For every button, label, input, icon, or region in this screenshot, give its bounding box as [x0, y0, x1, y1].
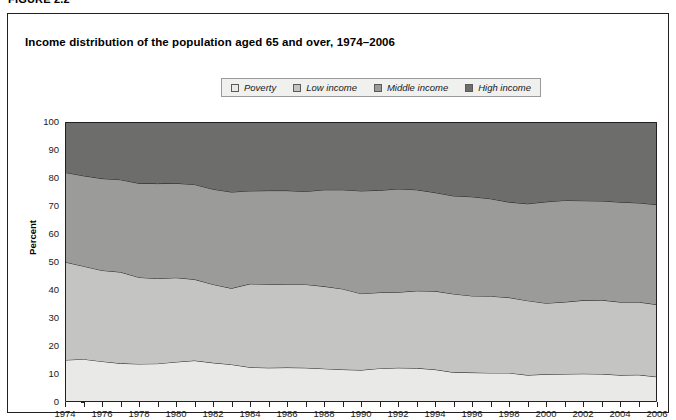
x-tick-mark: [491, 402, 492, 407]
x-tick-mark: [509, 402, 510, 407]
x-tick-label: 1994: [415, 409, 455, 419]
x-tick-mark: [176, 402, 177, 407]
chart-legend: PovertyLow incomeMiddle incomeHigh incom…: [221, 78, 541, 97]
x-tick-label: 1978: [119, 409, 159, 419]
x-tick-mark: [454, 402, 455, 407]
legend-item-label: Poverty: [244, 82, 276, 93]
x-tick-mark: [232, 402, 233, 407]
legend-swatch-icon: [231, 84, 239, 92]
x-tick-mark: [287, 402, 288, 407]
legend-swatch-icon: [374, 84, 382, 92]
x-tick-mark: [121, 402, 122, 407]
y-tick-label: 70: [31, 201, 59, 211]
x-tick-label: 1976: [82, 409, 122, 419]
legend-item[interactable]: Poverty: [231, 82, 276, 93]
x-tick-mark: [639, 402, 640, 407]
y-tick-label: 100: [31, 117, 59, 127]
x-tick-label: 1996: [452, 409, 492, 419]
x-tick-mark: [324, 402, 325, 407]
x-tick-label: 1984: [230, 409, 270, 419]
x-tick-mark: [195, 402, 196, 407]
y-tick-label: 0: [31, 397, 59, 407]
x-tick-mark: [583, 402, 584, 407]
y-tick-label: 40: [31, 285, 59, 295]
x-tick-label: 2000: [526, 409, 566, 419]
x-tick-mark: [620, 402, 621, 407]
x-tick-label: 1998: [489, 409, 529, 419]
plot-area: [65, 122, 657, 402]
legend-item-label: Low income: [306, 82, 357, 93]
legend-item[interactable]: High income: [465, 82, 531, 93]
legend-item-label: Middle income: [387, 82, 448, 93]
x-tick-mark: [602, 402, 603, 407]
y-axis-ticks: 0102030405060708090100: [29, 122, 59, 402]
legend-item-label: High income: [478, 82, 531, 93]
x-tick-mark: [213, 402, 214, 407]
legend-swatch-icon: [465, 84, 473, 92]
x-tick-label: 1982: [193, 409, 233, 419]
x-tick-label: 1974: [45, 409, 85, 419]
x-tick-label: 2002: [563, 409, 603, 419]
x-tick-mark: [472, 402, 473, 407]
x-axis-ticks: 1974197619781980198219841986198819901992…: [65, 402, 657, 420]
x-tick-mark: [139, 402, 140, 407]
figure-label: FIGURE 2.2: [8, 0, 70, 7]
y-tick-label: 30: [31, 313, 59, 323]
x-tick-label: 1980: [156, 409, 196, 419]
x-tick-mark: [657, 402, 658, 407]
x-tick-mark: [65, 402, 66, 407]
x-tick-mark: [546, 402, 547, 407]
x-tick-label: 1988: [304, 409, 344, 419]
legend-swatch-icon: [293, 84, 301, 92]
x-tick-label: 2006: [637, 409, 676, 419]
y-tick-label: 60: [31, 229, 59, 239]
x-tick-mark: [84, 402, 85, 407]
x-tick-mark: [528, 402, 529, 407]
y-tick-label: 20: [31, 341, 59, 351]
x-tick-mark: [435, 402, 436, 407]
x-tick-mark: [343, 402, 344, 407]
x-tick-mark: [306, 402, 307, 407]
figure-panel: Income distribution of the population ag…: [7, 13, 669, 413]
x-tick-label: 1990: [341, 409, 381, 419]
x-tick-mark: [361, 402, 362, 407]
x-tick-mark: [102, 402, 103, 407]
x-tick-mark: [269, 402, 270, 407]
x-tick-label: 1986: [267, 409, 307, 419]
stacked-area-chart: [65, 122, 657, 402]
y-tick-label: 10: [31, 369, 59, 379]
x-tick-label: 1992: [378, 409, 418, 419]
x-tick-mark: [417, 402, 418, 407]
y-tick-label: 50: [31, 257, 59, 267]
x-tick-mark: [158, 402, 159, 407]
x-tick-mark: [380, 402, 381, 407]
x-tick-mark: [250, 402, 251, 407]
legend-item[interactable]: Middle income: [374, 82, 448, 93]
legend-item[interactable]: Low income: [293, 82, 357, 93]
y-tick-label: 80: [31, 173, 59, 183]
page-title: Income distribution of the population ag…: [25, 36, 395, 48]
x-tick-mark: [398, 402, 399, 407]
y-tick-label: 90: [31, 145, 59, 155]
x-tick-label: 2004: [600, 409, 640, 419]
x-tick-mark: [565, 402, 566, 407]
